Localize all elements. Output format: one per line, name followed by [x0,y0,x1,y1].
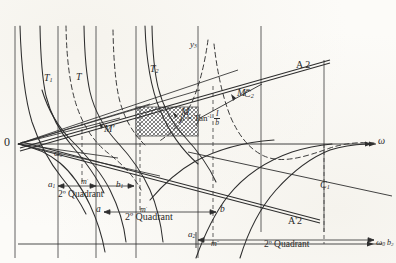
quadrant-caption-middle: 2º Quadrant [125,212,173,222]
omega-arrowheads [365,141,374,246]
curve-label-T2: T2 [150,64,159,75]
quadrant-tick-a2: a2 [188,230,195,240]
axis-label-omega-right: ω [378,136,385,146]
curve-label-y3: y3 [190,40,197,50]
curve-label-T: T [76,72,82,83]
line-label-A2-prime: A'2 [288,216,302,226]
tangent-curves [18,26,216,252]
quadrant-tick-b2: b2 [387,239,393,248]
line-label-A2: A 2 [296,60,310,70]
diagram-vector-layer [0,0,396,263]
quadrant-tick-b-mid: b [220,205,225,215]
quadrant-tick-a-mid: a [96,205,101,215]
quadrant-tick-b1: b1 [116,180,123,190]
origin-label: 0 [4,136,10,148]
axis-label-omega-bottom: ω0 [376,238,385,248]
formula-beta: β = Tan-1 I b [180,110,220,127]
quadrant-caption-lower-right: 2º Quadrant [264,240,309,250]
quadrant-tick-m-double-prime: m" [211,240,219,248]
point-label-M-double-prime: M" [237,88,250,98]
curve-label-T1: T1 [44,73,53,84]
point-label-M-prime: M' [104,124,114,134]
quadrant-tick-m-prime-1: m' [81,178,88,186]
vertical-grid-rules [15,26,324,258]
quadrant-caption-upper-left: 2º Quadrant [58,190,103,200]
point-label-omega-0: ω0 [54,150,62,159]
line-label-C1: C1 [320,180,330,191]
quadrant-tick-a1: a1 [48,180,55,190]
figure-canvas: 0 T1 T T2 y3 A 2 A'2 C2 C1 M M' M" ω0 ω … [0,0,396,263]
